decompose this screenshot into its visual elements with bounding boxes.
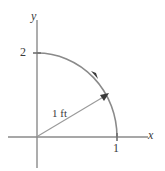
x-axis-label: x: [148, 129, 153, 141]
y-tick-label-2: 2: [20, 46, 26, 58]
radius-dimension-label: 1 ft: [52, 108, 67, 119]
radius-arrow-shaft: [38, 96, 105, 136]
diagram-canvas: [0, 0, 165, 171]
x-tick-label-1: 1: [113, 142, 119, 154]
y-axis-label: y: [31, 10, 36, 22]
quarter-arc-coordinate-diagram: y x 2 1 1 ft: [0, 0, 165, 171]
